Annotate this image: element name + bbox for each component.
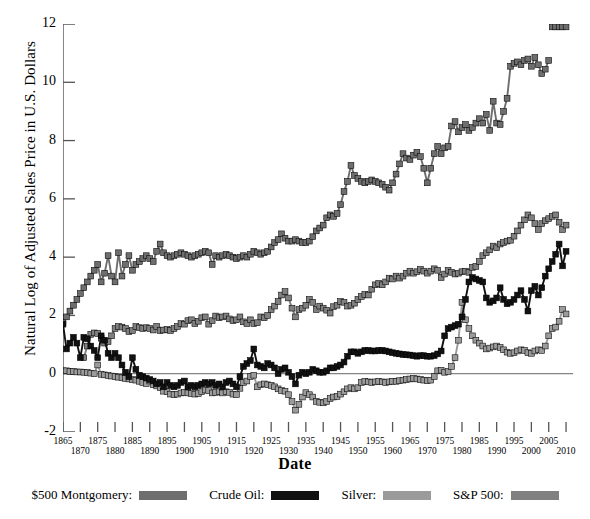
- data-point: [234, 384, 240, 390]
- data-point: [126, 253, 132, 259]
- y-tick-label: 8: [26, 132, 56, 148]
- data-point: [556, 219, 562, 225]
- data-point: [355, 385, 361, 391]
- data-point: [64, 346, 70, 352]
- data-point: [397, 161, 403, 167]
- data-point: [532, 221, 538, 227]
- data-point: [535, 292, 541, 298]
- data-point: [511, 233, 517, 239]
- legend-item[interactable]: Silver:: [341, 487, 431, 503]
- series-s-p-500: [81, 212, 569, 361]
- data-point: [63, 321, 66, 327]
- data-point: [102, 270, 108, 276]
- data-point: [77, 355, 83, 361]
- data-point: [476, 259, 482, 265]
- data-point: [129, 355, 135, 361]
- data-point: [157, 241, 163, 247]
- legend-label: Crude Oil:: [209, 487, 264, 503]
- legend-item[interactable]: $500 Montgomery:: [31, 487, 187, 503]
- legend-color-swatch: [139, 491, 187, 500]
- data-point: [452, 119, 458, 125]
- data-point: [71, 334, 77, 340]
- y-tick-label: 4: [26, 248, 56, 264]
- data-point: [133, 366, 139, 372]
- legend-item[interactable]: S&P 500:: [453, 487, 558, 503]
- data-point: [289, 374, 295, 380]
- data-point: [206, 250, 212, 256]
- data-point: [386, 187, 392, 193]
- data-point: [150, 259, 156, 265]
- data-point: [435, 144, 441, 150]
- data-point: [560, 263, 566, 269]
- data-point: [119, 273, 125, 279]
- data-point: [247, 358, 253, 364]
- legend-color-swatch: [271, 491, 319, 500]
- y-tick-label: 0: [26, 365, 56, 381]
- data-point: [546, 333, 552, 339]
- data-point: [428, 165, 434, 171]
- data-point: [286, 295, 292, 301]
- data-point: [442, 333, 448, 339]
- data-point: [452, 355, 458, 361]
- data-point: [296, 401, 302, 407]
- data-point: [334, 211, 340, 217]
- data-point: [487, 127, 493, 133]
- data-point: [480, 120, 486, 126]
- data-point: [234, 392, 240, 398]
- data-point: [74, 297, 80, 303]
- data-point: [102, 337, 108, 343]
- data-point: [556, 318, 562, 324]
- data-point: [532, 55, 538, 61]
- x-axis-title: Date: [0, 455, 590, 473]
- data-point: [105, 253, 111, 259]
- data-point: [275, 237, 281, 243]
- data-point: [518, 222, 524, 228]
- data-point: [67, 340, 73, 346]
- data-point: [303, 302, 309, 308]
- data-point: [293, 314, 299, 320]
- data-point: [237, 374, 243, 380]
- chart-figure: Natural Log of Adjusted Sales Price in U…: [0, 0, 590, 519]
- data-point: [95, 362, 101, 368]
- data-point: [275, 299, 281, 305]
- data-point: [265, 313, 271, 319]
- data-point: [254, 320, 260, 326]
- data-point: [119, 362, 125, 368]
- data-point: [95, 262, 101, 268]
- data-point: [116, 355, 122, 361]
- data-point: [129, 267, 135, 273]
- data-point: [289, 399, 295, 405]
- data-point: [112, 279, 118, 285]
- data-point: [445, 144, 451, 150]
- data-point: [563, 222, 569, 228]
- data-point: [88, 273, 94, 279]
- data-point: [116, 250, 122, 256]
- series--500-montgomery: [63, 24, 569, 326]
- data-point: [365, 292, 371, 298]
- data-point: [463, 297, 469, 303]
- data-point: [202, 314, 208, 320]
- data-point: [483, 111, 489, 117]
- data-point: [490, 98, 496, 104]
- data-point: [91, 348, 97, 354]
- data-point: [542, 343, 548, 349]
- legend-color-swatch: [383, 491, 431, 500]
- data-point: [497, 285, 503, 291]
- data-point: [84, 336, 90, 342]
- data-point: [456, 321, 462, 327]
- plot-area: [63, 24, 573, 432]
- data-point: [91, 371, 97, 377]
- data-point: [251, 372, 257, 378]
- data-point: [563, 248, 569, 254]
- data-point: [515, 228, 521, 234]
- data-point: [327, 310, 333, 316]
- data-point: [463, 122, 469, 128]
- data-point: [345, 178, 351, 184]
- data-point: [95, 355, 101, 361]
- data-point: [424, 180, 430, 186]
- data-point: [459, 314, 465, 320]
- legend-item[interactable]: Crude Oil:: [209, 487, 319, 503]
- data-point: [126, 374, 132, 380]
- y-tick-label: 10: [26, 73, 56, 89]
- data-point: [272, 365, 278, 371]
